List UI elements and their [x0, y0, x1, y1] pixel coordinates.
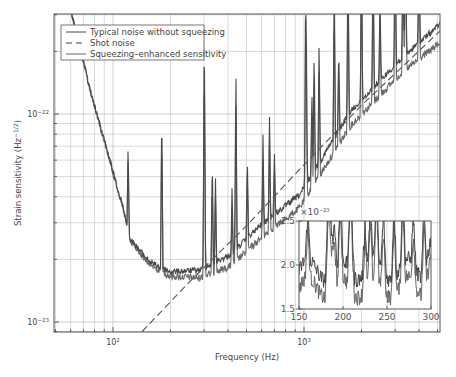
inset-multiplier: ×10−23: [300, 207, 330, 217]
x-tick-label: 102: [106, 337, 120, 347]
legend: Typical noise without squeezing Shot noi…: [61, 25, 226, 60]
svg-text:Typical noise without squeezin: Typical noise without squeezing: [89, 27, 225, 37]
y-axis-title: Strain sensitivity (Hz−1/2): [12, 120, 24, 226]
x-tick-label: 103: [297, 337, 311, 347]
x-axis-title: Frequency (Hz): [215, 352, 279, 362]
inset-x-tick-label: 200: [334, 312, 351, 322]
y-tick-label: 10−23: [27, 317, 49, 327]
legend-item-typical: Typical noise without squeezing: [66, 27, 225, 37]
inset-x-tick-label: 300: [422, 312, 439, 322]
inset-y-tick-label: 2.5: [281, 216, 295, 226]
svg-text:Shot noise: Shot noise: [90, 38, 135, 48]
strain-sensitivity-chart: 10210310−2210−23 Frequency (Hz) Strain s…: [0, 0, 456, 377]
svg-text:Squeezing–enhanced sensitivity: Squeezing–enhanced sensitivity: [90, 49, 226, 59]
inset-y-tick-label: 1.5: [281, 304, 295, 314]
inset-x-tick-label: 250: [378, 312, 395, 322]
inset-y-tick-label: 2.0: [281, 260, 296, 270]
y-tick-label: 10−22: [27, 109, 49, 119]
legend-item-squeezed: Squeezing–enhanced sensitivity: [66, 49, 226, 59]
